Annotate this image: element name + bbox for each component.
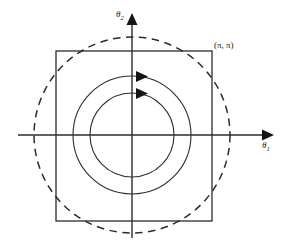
vertical-axis-arrowhead-icon (127, 13, 138, 25)
vertical-axis-label-subscript: 2 (120, 14, 123, 21)
outer-circle-direction-arrowhead-icon (136, 71, 148, 82)
horizontal-axis-label-subscript: 1 (266, 145, 269, 152)
vertical-axis-label: θ2 (116, 10, 124, 21)
horizontal-axis-arrowhead-icon (262, 130, 274, 141)
phase-portrait-figure: θ2 θ1 (π, π) (0, 0, 288, 245)
inner-circle-direction-arrowhead-icon (136, 88, 148, 99)
corner-point-label: (π, π) (214, 41, 234, 50)
figure-canvas (0, 0, 288, 245)
horizontal-axis-label: θ1 (262, 141, 270, 152)
